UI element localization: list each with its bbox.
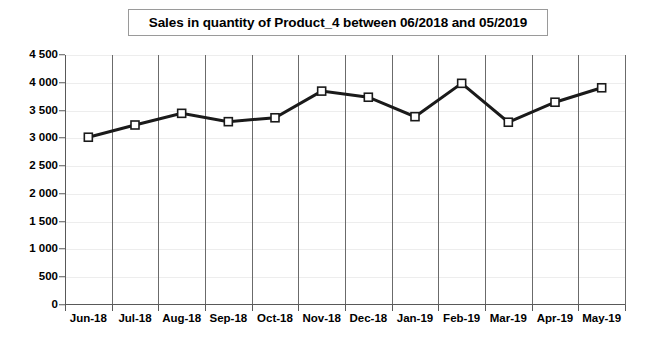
y-axis-label: 1 000	[6, 244, 58, 256]
x-axis-tick	[65, 305, 66, 311]
y-axis-tick	[59, 221, 65, 222]
data-point-marker	[271, 114, 279, 122]
chart-title-box: Sales in quantity of Product_4 between 0…	[128, 9, 548, 36]
y-axis-tick	[59, 138, 65, 139]
data-point-marker	[131, 121, 139, 129]
y-axis-tick	[59, 54, 65, 55]
y-axis-label: 1 500	[6, 216, 58, 228]
data-point-marker	[318, 87, 326, 95]
data-point-marker	[504, 118, 512, 126]
y-axis-label: 0	[6, 299, 58, 311]
series-line	[88, 83, 601, 137]
y-axis-label: 4 000	[6, 77, 58, 89]
data-point-marker	[84, 133, 92, 141]
y-axis-label: 2 000	[6, 188, 58, 200]
data-point-marker	[598, 84, 606, 92]
x-axis-tick	[252, 305, 253, 311]
x-axis-tick	[438, 305, 439, 311]
vertical-gridline	[625, 55, 626, 305]
y-axis-tick	[59, 165, 65, 166]
data-point-marker	[364, 93, 372, 101]
x-axis-tick	[625, 305, 626, 311]
chart-title: Sales in quantity of Product_4 between 0…	[149, 15, 527, 30]
y-axis-tick	[59, 249, 65, 250]
x-axis-tick	[485, 305, 486, 311]
y-axis-tick	[59, 193, 65, 194]
x-axis-tick	[112, 305, 113, 311]
plot-area	[65, 55, 625, 305]
line-chart: Sales in quantity of Product_4 between 0…	[0, 0, 650, 346]
y-axis-label: 3 000	[6, 133, 58, 145]
x-axis-tick	[392, 305, 393, 311]
series-sales-in-quantity	[65, 55, 625, 305]
x-axis-tick	[158, 305, 159, 311]
x-axis-tick	[532, 305, 533, 311]
data-point-marker	[458, 79, 466, 87]
x-axis-label: May-19	[567, 313, 637, 325]
data-point-marker	[411, 113, 419, 121]
x-axis-tick	[345, 305, 346, 311]
y-axis-tick	[59, 110, 65, 111]
y-axis-label: 4 500	[6, 49, 58, 61]
y-axis-label: 500	[6, 271, 58, 283]
x-axis-tick	[578, 305, 579, 311]
data-point-marker	[178, 109, 186, 117]
x-axis-tick	[298, 305, 299, 311]
data-point-marker	[551, 98, 559, 106]
y-axis-tick	[59, 276, 65, 277]
y-axis-label: 2 500	[6, 160, 58, 172]
data-point-marker	[224, 118, 232, 126]
y-axis-tick	[59, 82, 65, 83]
x-axis-tick	[205, 305, 206, 311]
y-axis-label: 3 500	[6, 105, 58, 117]
